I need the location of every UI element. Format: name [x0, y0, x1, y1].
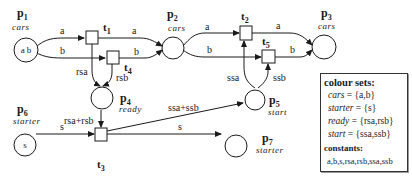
arc-label-p2-t2: a	[205, 21, 210, 32]
svg-text:p3: p3	[321, 6, 332, 22]
p1-tokens: a b	[21, 45, 32, 55]
legend-row-start: start = {ssa,ssb}	[324, 128, 404, 141]
transition-t1: t1	[86, 21, 111, 44]
svg-text:starter: starter	[13, 116, 41, 126]
place-p5: p5 start	[245, 90, 287, 117]
arc-label-p2-t5: b	[207, 44, 212, 55]
arc-label-t4-p2: b	[134, 46, 139, 57]
svg-text:t3: t3	[97, 158, 105, 173]
legend-row-ready: ready = {rsa,rsb}	[324, 115, 404, 128]
transition-t3: t3	[95, 128, 107, 173]
arc-t1-p2	[97, 38, 162, 46]
svg-text:t1: t1	[103, 21, 111, 36]
arc-label-p5-t5: ssb	[273, 72, 286, 83]
place-p7: p7 starter	[225, 131, 284, 157]
svg-text:p1: p1	[17, 6, 28, 22]
constants-title: constants:	[324, 142, 404, 155]
arc-label-p5-t2: ssa	[227, 72, 240, 83]
arc-label-t2-p3: a	[276, 20, 281, 31]
place-p2: p2 cars	[162, 7, 186, 59]
arc-label-t1-p4: rsa	[76, 66, 88, 77]
place-p3: p3 cars	[312, 6, 336, 59]
svg-text:p2: p2	[167, 7, 178, 23]
arc-t2-p3	[252, 33, 312, 45]
svg-text:t2: t2	[241, 10, 249, 25]
place-p1: p1 cars a b	[12, 6, 38, 62]
svg-text:starter: starter	[256, 145, 284, 155]
p6-tokens: s	[23, 140, 27, 150]
svg-text:start: start	[268, 107, 287, 117]
svg-text:cars: cars	[168, 23, 186, 33]
svg-text:ready: ready	[119, 104, 142, 114]
place-p6: p6 starter s	[13, 102, 41, 156]
arc-p5-t2	[244, 41, 255, 88]
arc-label-p1-t4: b	[60, 45, 65, 56]
colour-sets-legend: colour sets: cars = {a,b} starter = {s} …	[320, 73, 408, 172]
legend-row-starter: starter = {s}	[324, 102, 404, 115]
arc-label-p6-t3: s	[60, 121, 64, 132]
legend-row-cars: cars = {a,b}	[324, 89, 404, 102]
arc-p5-t5	[258, 64, 268, 88]
arc-p1-t4	[35, 52, 105, 58]
arc-label-p4-t3: rsa+rsb	[64, 115, 94, 126]
arc-label-t5-p3: b	[290, 44, 295, 55]
transition-t2: t2	[240, 10, 252, 40]
svg-text:cars: cars	[12, 22, 30, 32]
svg-text:t5: t5	[262, 35, 270, 50]
arc-t1-p4	[92, 44, 100, 86]
arc-label-t3-p7: s	[178, 121, 182, 132]
arc-t4-p4	[103, 64, 112, 86]
arc-label-t3-p5: ssa+ssb	[168, 102, 199, 113]
transition-t5: t5	[262, 35, 275, 63]
arc-label-p1-t1: a	[60, 25, 65, 36]
legend-title: colour sets:	[324, 76, 404, 89]
place-p4: p4 ready	[91, 87, 142, 114]
arc-label-t4-p4: rsb	[116, 72, 128, 83]
svg-text:cars: cars	[318, 21, 336, 31]
arc-label-t1-p2: a	[132, 25, 137, 36]
arc-t4-p2	[118, 50, 162, 58]
arc-p2-t5	[183, 50, 261, 57]
constants-list: a,b,s,rsa,rsb,ssa,ssb	[324, 155, 404, 168]
